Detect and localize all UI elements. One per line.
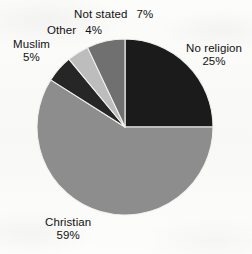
slice-label-other: Other 4%: [47, 24, 102, 37]
slice-label-christian-percent: 59%: [45, 229, 91, 242]
slice-label-no-religion-name: No religion: [186, 42, 242, 55]
slice-label-not-stated-percent: 7%: [136, 8, 153, 21]
pie-chart-figure: No religion 25% Christian 59% Muslim 5% …: [0, 0, 252, 254]
slice-label-christian-name: Christian: [45, 216, 91, 229]
slice-label-not-stated: Not stated 7%: [74, 8, 153, 21]
slice-label-not-stated-name: Not stated: [74, 8, 127, 21]
slice-label-muslim: Muslim 5%: [13, 38, 50, 64]
slice-label-christian: Christian 59%: [45, 216, 91, 242]
slice-label-muslim-name: Muslim: [13, 38, 50, 51]
slice-label-muslim-percent: 5%: [13, 51, 50, 64]
slice-label-other-percent: 4%: [85, 24, 102, 37]
slice-label-other-name: Other: [47, 24, 76, 37]
slice-label-no-religion: No religion 25%: [186, 42, 242, 68]
slice-label-no-religion-percent: 25%: [186, 55, 242, 68]
